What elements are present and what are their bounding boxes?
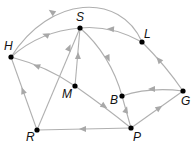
- arrowhead-icon: [122, 105, 130, 113]
- node-label-m: M: [62, 87, 72, 101]
- arrowhead-icon: [41, 31, 50, 39]
- arrowhead-icon: [79, 126, 86, 132]
- arrowhead-icon: [32, 62, 41, 70]
- arrowhead-icon: [19, 86, 27, 95]
- node-label-r: R: [26, 130, 35, 143]
- node-label-b: B: [110, 93, 118, 107]
- edge-g-to-l: [142, 42, 183, 91]
- node-h: [8, 54, 13, 59]
- node-label-h: H: [4, 39, 13, 53]
- arrowhead-icon: [47, 7, 56, 16]
- arrowhead-icon: [107, 26, 114, 33]
- arrows-layer: [19, 7, 164, 132]
- node-label-l: L: [144, 27, 151, 41]
- node-m: [72, 83, 77, 88]
- node-s: [77, 25, 82, 30]
- labels-layer: HSLMBGRP: [4, 10, 190, 143]
- arrowhead-icon: [148, 86, 155, 92]
- directed-graph-diagram: HSLMBGRP: [0, 0, 194, 143]
- node-g: [180, 88, 185, 93]
- edge-s-to-b: [80, 28, 122, 96]
- node-label-p: P: [133, 130, 141, 143]
- edge-r-to-s: [37, 28, 80, 130]
- node-b: [119, 93, 124, 98]
- nodes-layer: [8, 25, 185, 132]
- node-label-g: G: [181, 94, 190, 108]
- arrowhead-icon: [75, 52, 81, 59]
- node-r: [34, 127, 39, 132]
- node-label-s: S: [76, 10, 84, 24]
- edges-layer: [11, 7, 183, 130]
- arrowhead-icon: [155, 103, 164, 112]
